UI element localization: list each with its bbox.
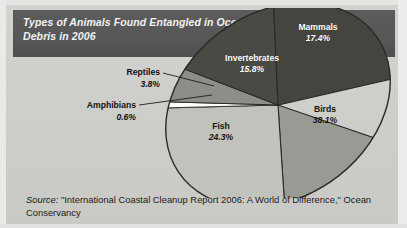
leader-line-reptiles (163, 73, 214, 86)
leader-line-amphibians (139, 95, 212, 105)
pie-label-reptiles-pct: 3.8% (86, 79, 160, 91)
pie-label-amphibians-name: Amphibians (87, 100, 136, 110)
pie-label-reptiles-name: Reptiles (127, 67, 160, 77)
pie-label-reptiles: Reptiles 3.8% (86, 67, 160, 90)
source-note: Source: "International Coastal Cleanup R… (26, 193, 386, 219)
chart-page: Types of Animals Found Entangled in Ocea… (0, 0, 407, 228)
source-label: Source: (26, 194, 58, 205)
pie-label-amphibians-pct: 0.6% (36, 112, 136, 124)
pie-label-amphibians: Amphibians 0.6% (36, 100, 136, 123)
source-text: "International Coastal Cleanup Report 20… (26, 194, 371, 218)
